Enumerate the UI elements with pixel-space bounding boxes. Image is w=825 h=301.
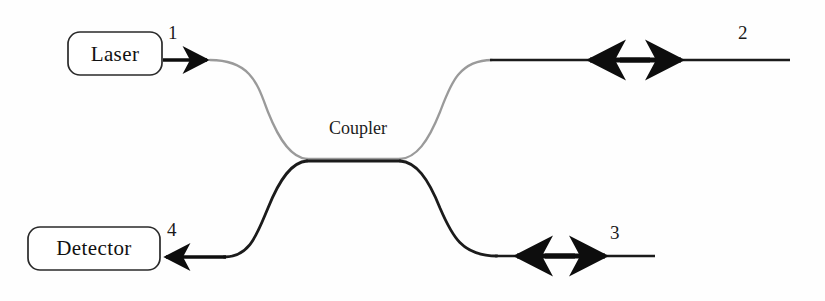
port-label-2: 2 <box>738 22 748 44</box>
port-label-1: 1 <box>168 22 178 44</box>
detector-label: Detector <box>28 236 160 261</box>
laser-label: Laser <box>68 42 162 67</box>
fiber-lower-right <box>400 161 497 256</box>
port-label-4: 4 <box>167 219 177 241</box>
fiber-lower-left <box>224 161 307 257</box>
fiber-upper-left <box>210 60 307 159</box>
port-label-3: 3 <box>610 222 620 244</box>
fiber-upper-right <box>400 60 492 159</box>
coupler-diagram-figure: Laser Detector Coupler 1 2 3 4 <box>0 0 825 301</box>
coupler-label: Coupler <box>305 118 411 139</box>
